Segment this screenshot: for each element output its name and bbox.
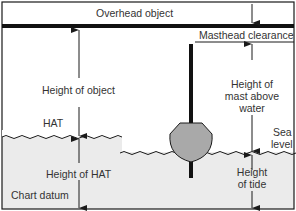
height-of-hat-label: Height of HAT	[46, 168, 111, 180]
height-of-mast-label-3: water	[224, 102, 280, 114]
height-of-object-label: Height of object	[42, 84, 115, 96]
height-of-mast-label-1: Height of	[224, 78, 280, 90]
sea-level-label-1: Sea	[273, 126, 292, 138]
height-of-tide-label-1: Height	[232, 166, 272, 178]
chart-datum-label: Chart datum	[11, 189, 69, 201]
overhead-object-bar	[2, 24, 294, 28]
masthead-clearance-label: Masthead clearance	[199, 29, 294, 41]
height-of-tide-label-2: of tide	[232, 178, 272, 190]
sea-level-label-2: level	[271, 138, 293, 150]
hat-label: HAT	[43, 117, 63, 129]
overhead-object-label: Overhead object	[96, 7, 173, 19]
height-of-mast-label-2: mast above	[224, 90, 280, 102]
